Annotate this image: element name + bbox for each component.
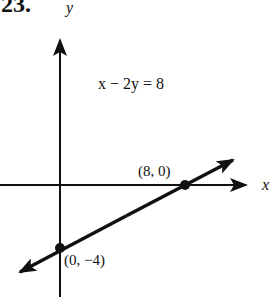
y-intercept-point <box>55 243 65 253</box>
graph <box>0 0 279 297</box>
equation-line <box>126 160 233 216</box>
equation-line-lower <box>20 216 126 272</box>
x-intercept-point <box>180 180 190 190</box>
